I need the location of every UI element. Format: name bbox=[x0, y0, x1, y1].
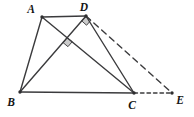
vertex-dot-E bbox=[170, 91, 173, 94]
vertex-label-B: B bbox=[6, 96, 15, 108]
geometry-figure-svg: ADBCE bbox=[0, 0, 194, 117]
vertex-dot-D bbox=[84, 14, 87, 17]
vertex-label-C: C bbox=[128, 99, 136, 111]
vertex-label-D: D bbox=[79, 1, 89, 13]
vertex-label-E: E bbox=[175, 94, 184, 106]
segment-AC bbox=[42, 17, 134, 93]
segment-AB bbox=[20, 17, 42, 92]
vertex-dot-C bbox=[132, 91, 135, 94]
vertex-dot-B bbox=[18, 90, 21, 93]
segment-AD bbox=[42, 16, 86, 17]
geometry-figure: ADBCE bbox=[0, 0, 194, 117]
vertex-label-A: A bbox=[26, 3, 35, 15]
segment-DC bbox=[86, 16, 134, 93]
segment-BC bbox=[20, 92, 134, 93]
vertex-dot-A bbox=[40, 15, 43, 18]
segment-DE bbox=[86, 16, 172, 93]
segment-BD bbox=[20, 16, 86, 92]
